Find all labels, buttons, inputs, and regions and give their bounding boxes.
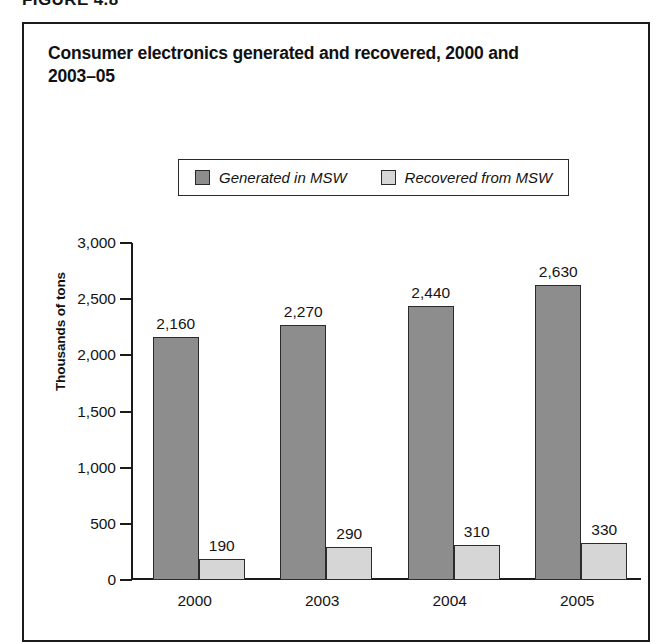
x-axis-category-label: 2000 [140,592,250,610]
bar-group: 2,160190 [131,243,259,580]
figure-frame: Consumer electronics generated and recov… [22,22,650,642]
bar-group: 2,630330 [514,243,642,580]
bar-value-label: 2,160 [141,315,211,333]
bar-value-label: 290 [314,525,384,543]
y-tick-label-text: 2,000 [56,346,116,364]
x-axis-category-label: 2003 [267,592,377,610]
bar-group: 2,270290 [259,243,387,580]
x-axis-category-label: 2004 [395,592,505,610]
bar-recovered[interactable] [199,559,245,580]
bar-value-label: 190 [187,537,257,555]
bar-recovered[interactable] [326,547,372,580]
y-tick-label-text: 3,000 [56,234,116,252]
y-tick-label-text: 1,000 [56,459,116,477]
bar-recovered[interactable] [581,543,627,580]
y-tick-label-text: 0 [56,571,116,589]
bar-recovered[interactable] [454,545,500,580]
figure-number-label: FIGURE 4.8 [22,0,119,10]
bar-value-label: 2,440 [396,284,466,302]
y-tick-label-text: 2,500 [56,290,116,308]
bar-value-label: 310 [442,523,512,541]
bar-value-label: 2,270 [268,303,338,321]
bar-group: 2,440310 [386,243,514,580]
y-tick-label-text: 500 [56,515,116,533]
bar-value-label: 330 [569,521,639,539]
bar-series-layer: 2,1601902,2702902,4403102,630330 [131,243,641,580]
y-tick-label-text: 1,500 [56,403,116,421]
plot-area: Thousands of tons 3,0002,5002,0001,5001,… [24,24,652,644]
y-axis-title: Thousands of tons [53,252,68,412]
bar-value-label: 2,630 [523,263,593,281]
x-axis-category-label: 2005 [522,592,632,610]
